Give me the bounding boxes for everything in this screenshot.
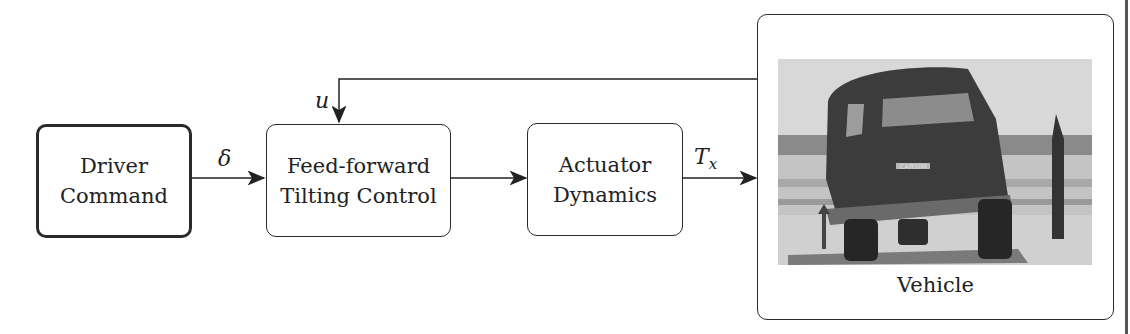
vehicle-caption: Vehicle: [758, 273, 1113, 297]
svg-text:CARSIM: CARSIM: [899, 163, 926, 171]
actuator-dynamics-block: Actuator Dynamics: [527, 123, 683, 236]
driver-command-block: Driver Command: [36, 124, 192, 238]
feedforward-tilting-control-block: Feed-forward Tilting Control: [266, 124, 451, 237]
delta-signal-label: δ: [218, 146, 231, 171]
actuator-line2: Dynamics: [553, 180, 657, 210]
driver-command-line2: Command: [60, 181, 168, 211]
vehicle-simulation-image: CARSIM: [778, 59, 1092, 265]
page-edge-divider: [1125, 0, 1128, 334]
driver-command-line1: Driver: [60, 151, 168, 181]
tx-subscript: x: [709, 155, 717, 173]
tx-signal-label: Tx: [694, 144, 717, 173]
u-signal-label: u: [315, 88, 329, 113]
vehicle-block: CARSIM Vehicle: [757, 14, 1114, 320]
feedforward-line2: Tilting Control: [280, 181, 436, 211]
tx-base: T: [694, 144, 709, 169]
actuator-line1: Actuator: [553, 150, 657, 180]
feedforward-line1: Feed-forward: [280, 151, 436, 181]
